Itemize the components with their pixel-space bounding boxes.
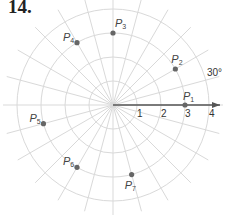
grid-ray-105 [85, 0, 113, 105]
point-label-p2: P2 [171, 53, 182, 66]
ring-label-4: 4 [209, 108, 215, 119]
point-label-p6: P6 [63, 155, 74, 168]
point-p6 [74, 165, 79, 170]
point-label-p7: P7 [125, 179, 136, 192]
point-label-p4: P4 [63, 31, 74, 44]
grid-ray-75 [113, 0, 141, 105]
grid-ray-15 [113, 77, 219, 105]
grid-ray-225 [35, 105, 113, 183]
grid-ray-165 [7, 77, 113, 105]
point-label-p5: P5 [29, 112, 40, 125]
grid-ray-285 [113, 105, 141, 211]
ring-label-2: 2 [161, 108, 167, 119]
grid-ray-255 [85, 105, 113, 211]
point-label-p3: P3 [115, 17, 126, 30]
ring-label-1: 1 [137, 108, 143, 119]
point-label-p1: P1 [183, 90, 194, 103]
grid-ray-45 [113, 27, 191, 105]
point-p7 [129, 172, 134, 177]
angle-label-30: 30° [207, 67, 222, 78]
point-p2 [173, 66, 178, 71]
grid-ray-195 [7, 105, 113, 133]
polar-diagram: 1 2 3 4 30° P1P2P3P4P5P6P7 [0, 0, 229, 219]
point-p4 [74, 40, 79, 45]
point-p1 [182, 102, 187, 107]
ring-label-3: 3 [185, 108, 191, 119]
grid-ray-315 [113, 105, 191, 183]
point-p5 [41, 121, 46, 126]
point-p3 [110, 30, 115, 35]
